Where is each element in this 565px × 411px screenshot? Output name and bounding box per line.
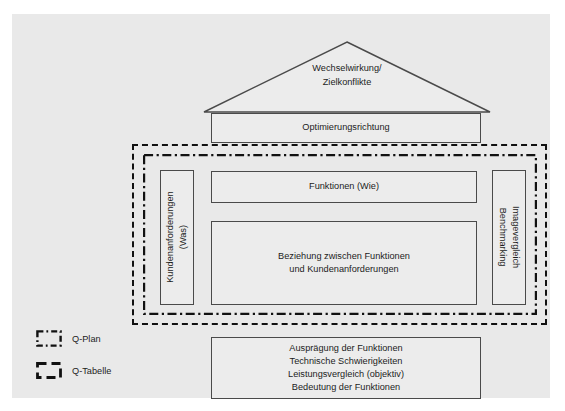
- relationship-matrix-label: Beziehung zwischen Funktionen und Kunden…: [278, 250, 410, 276]
- relationship-matrix-box: Beziehung zwischen Funktionen und Kunden…: [211, 221, 477, 305]
- benchmarking-line-2: Benchmarking: [496, 206, 509, 268]
- technical-attributes-line-3: Leistungsvergleich (objektiv): [288, 368, 404, 381]
- optimization-direction-box: Optimierungsrichtung: [211, 113, 481, 143]
- roof-label: Wechselwirkung/ Zielkonflikte: [202, 62, 492, 89]
- dashed-square-icon: [36, 362, 62, 379]
- legend-label-q-plan: Q-Plan: [72, 334, 101, 344]
- customer-requirements-line-2: (Was): [177, 192, 190, 283]
- technical-attributes-line-4: Bedeutung der Funktionen: [292, 381, 400, 394]
- functions-label: Funktionen (Wie): [309, 180, 379, 193]
- diagram-canvas: Wechselwirkung/ Zielkonflikte Optimierun…: [0, 0, 565, 411]
- legend-item-q-plan: Q-Plan: [36, 330, 101, 347]
- customer-requirements-line-1: Kundenanforderungen: [164, 192, 177, 283]
- technical-attributes-box: Ausprägung der Funktionen Technische Sch…: [211, 337, 481, 399]
- benchmarking-line-1: Imagevergleich: [509, 206, 522, 268]
- customer-requirements-box: Kundenanforderungen (Was): [160, 170, 194, 305]
- technical-attributes-line-2: Technische Schwierigkeiten: [290, 355, 403, 368]
- optimization-direction-label: Optimierungsrichtung: [302, 121, 389, 134]
- diagram-panel: Wechselwirkung/ Zielkonflikte Optimierun…: [12, 14, 550, 398]
- legend-item-q-tabelle: Q-Tabelle: [36, 362, 111, 379]
- benchmarking-label: Imagevergleich Benchmarking: [496, 206, 522, 268]
- dash-dot-square-icon: [36, 330, 62, 347]
- relationship-matrix-line-2: und Kundenanforderungen: [278, 263, 410, 276]
- functions-box: Funktionen (Wie): [211, 171, 477, 203]
- benchmarking-box: Imagevergleich Benchmarking: [492, 170, 526, 305]
- customer-requirements-label: Kundenanforderungen (Was): [164, 192, 190, 283]
- technical-attributes-line-1: Ausprägung der Funktionen: [289, 342, 402, 355]
- roof-label-line-1: Wechselwirkung/: [202, 62, 492, 76]
- relationship-matrix-line-1: Beziehung zwischen Funktionen: [278, 250, 410, 263]
- legend-label-q-tabelle: Q-Tabelle: [72, 366, 111, 376]
- roof-label-line-2: Zielkonflikte: [202, 76, 492, 90]
